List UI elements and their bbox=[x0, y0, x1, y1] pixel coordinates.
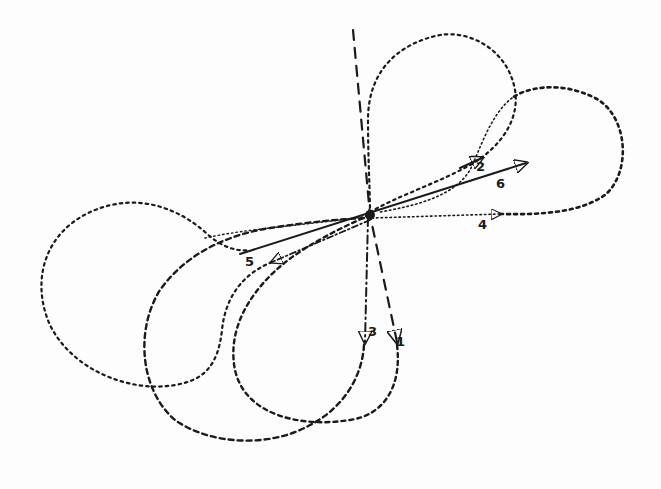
path-4 bbox=[372, 87, 623, 218]
label-6: 6 bbox=[496, 177, 505, 190]
path-5-return bbox=[205, 216, 368, 238]
path-6-line bbox=[240, 163, 526, 254]
path-4-loop bbox=[500, 87, 623, 214]
label-5: 5 bbox=[245, 255, 254, 268]
path-6 bbox=[240, 163, 526, 254]
trajectory-diagram: 1 2 3 4 5 6 bbox=[0, 0, 661, 489]
diagram-svg bbox=[0, 0, 661, 489]
path-5 bbox=[41, 203, 370, 387]
path-3 bbox=[144, 218, 368, 441]
path-1-loop bbox=[233, 215, 398, 422]
path-3-loop bbox=[144, 218, 368, 441]
path-1-line bbox=[353, 30, 397, 342]
label-2: 2 bbox=[476, 160, 485, 173]
label-1: 1 bbox=[396, 335, 405, 348]
path-2 bbox=[368, 34, 516, 212]
origin-point bbox=[365, 210, 375, 220]
path-4-return bbox=[380, 98, 512, 212]
label-4: 4 bbox=[478, 218, 487, 231]
label-3: 3 bbox=[368, 325, 377, 338]
path-2-loop bbox=[368, 34, 516, 212]
